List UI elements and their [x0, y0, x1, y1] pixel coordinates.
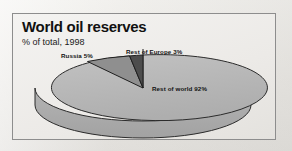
pie-label-rest-of-europe: Rest of Europe 3% [126, 48, 182, 55]
pie-label-russia: Russia 5% [61, 52, 93, 59]
pie-label-rest-of-world: Rest of world 92% [152, 85, 207, 92]
pie-chart-3d [12, 13, 276, 140]
